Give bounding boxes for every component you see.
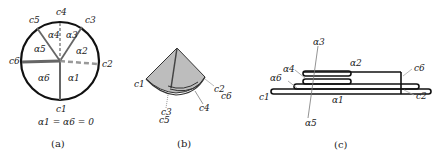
crease-c2 xyxy=(60,61,98,64)
label-c3: c3 xyxy=(85,15,96,25)
label-c4: c4 xyxy=(199,103,210,113)
label-alpha6: α6 xyxy=(38,73,50,83)
label-c6: c6 xyxy=(9,56,20,66)
label-c6: c6 xyxy=(221,91,232,101)
leader-a3-a5 xyxy=(308,46,318,118)
label-alpha4: α4 xyxy=(48,30,60,40)
label-alpha6: α6 xyxy=(270,73,282,83)
label-alpha3: α3 xyxy=(66,30,78,40)
figure: c4 c5 c3 c6 c2 c1 α4 α3 α5 α2 α6 α1 α1 =… xyxy=(0,0,435,160)
label-c5: c5 xyxy=(159,115,170,125)
caption-a: (a) xyxy=(51,138,65,149)
label-alpha4: α4 xyxy=(283,64,295,74)
label-c1: c1 xyxy=(134,79,145,89)
label-alpha3: α3 xyxy=(313,37,325,47)
label-c2: c2 xyxy=(102,59,113,69)
label-c1: c1 xyxy=(56,104,67,114)
caption-c: (c) xyxy=(334,139,348,150)
equation: α1 = α6 = 0 xyxy=(38,117,94,127)
label-alpha5: α5 xyxy=(305,118,317,128)
panel-a: c4 c5 c3 c6 c2 c1 α4 α3 α5 α2 α6 α1 α1 =… xyxy=(9,7,113,149)
caption-b: (b) xyxy=(177,138,191,149)
label-alpha5: α5 xyxy=(34,44,46,54)
leader-c2 xyxy=(205,79,214,86)
strip-3 xyxy=(303,79,351,84)
panel-b: c1 c2 c6 c4 c3 c5 (b) xyxy=(134,48,232,149)
leader-c6 xyxy=(403,69,412,76)
label-alpha2: α2 xyxy=(76,46,88,56)
label-c5: c5 xyxy=(29,15,40,25)
label-c1: c1 xyxy=(259,92,270,102)
label-alpha1: α1 xyxy=(332,95,344,105)
crease-c6 xyxy=(22,61,60,62)
label-c2: c2 xyxy=(416,91,427,101)
label-c4: c4 xyxy=(56,7,67,17)
label-alpha1: α1 xyxy=(68,73,80,83)
label-alpha2: α2 xyxy=(350,58,362,68)
panel-c: α3 α2 α4 α6 c1 α1 c6 c2 α5 (c) xyxy=(259,37,431,150)
label-c6: c6 xyxy=(414,63,425,73)
